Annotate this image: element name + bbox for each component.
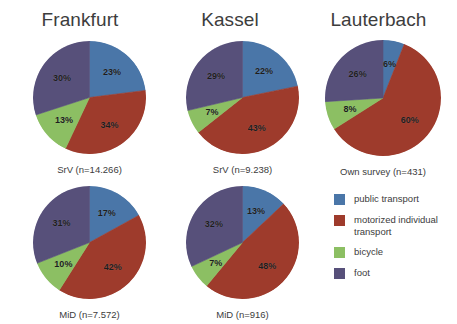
pie-graphic: 22%43%7%29% <box>186 41 299 154</box>
column-title-lauterbach: Lauterbach <box>300 10 457 29</box>
pie-graphic: 13%48%7%32% <box>186 186 299 299</box>
pie-chart-frankfurt-mid: 17%42%10%31% MiD (n=7.572) <box>33 186 146 299</box>
pie-chart-kassel-srv: 22%43%7%29% SrV (n=9.238) <box>186 41 299 154</box>
legend-item-foot: foot <box>334 267 457 279</box>
legend-item-public-transport: public transport <box>334 193 457 205</box>
legend-swatch-icon <box>334 215 345 226</box>
legend-item-motorized-individual-transport: motorized individual transport <box>334 214 457 237</box>
pie-graphic: 6%60%8%26% <box>325 40 441 156</box>
pie-chart-frankfurt-srv: 23%34%13%30% SrV (n=14.266) <box>33 41 146 154</box>
legend-label: motorized individual transport <box>354 214 457 237</box>
pie-graphic: 23%34%13%30% <box>33 41 146 154</box>
pie-caption: MiD (n=7.572) <box>59 310 119 320</box>
pie-caption: SrV (n=9.238) <box>213 165 272 175</box>
legend-item-bicycle: bicycle <box>334 246 457 258</box>
pie-slice <box>90 41 146 98</box>
pie-chart-kassel-mid: 13%48%7%32% MiD (n=916) <box>186 186 299 299</box>
pie-caption: Own survey (n=431) <box>340 167 426 177</box>
pie-slice <box>325 40 383 102</box>
pie-chart-lauterbach-own-survey: 6%60%8%26% Own survey (n=431) <box>325 40 441 156</box>
legend-swatch-icon <box>334 194 345 205</box>
column-title-frankfurt: Frankfurt <box>0 10 160 29</box>
legend-swatch-icon <box>334 268 345 279</box>
pie-caption: MiD (n=916) <box>216 310 269 320</box>
pie-caption: SrV (n=14.266) <box>57 165 122 175</box>
legend: public transport motorized individual tr… <box>334 193 457 288</box>
column-title-kassel: Kassel <box>150 10 310 29</box>
legend-label: foot <box>354 267 370 279</box>
legend-label: public transport <box>354 193 419 205</box>
figure-canvas: Frankfurt Kassel Lauterbach 23%34%13%30%… <box>0 0 457 324</box>
legend-label: bicycle <box>354 246 383 258</box>
legend-swatch-icon <box>334 247 345 258</box>
pie-graphic: 17%42%10%31% <box>33 186 146 299</box>
